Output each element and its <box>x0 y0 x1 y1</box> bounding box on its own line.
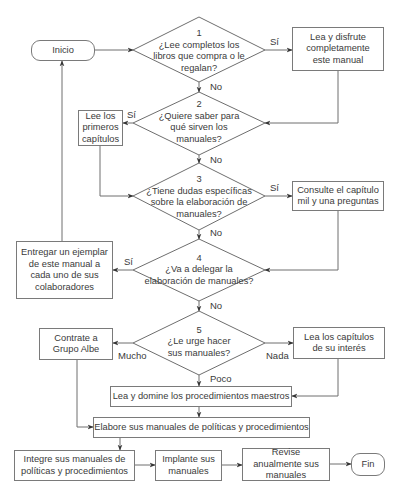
decision-4-number: 4 <box>196 253 201 265</box>
start-label: Inicio <box>52 45 74 57</box>
start-terminal: Inicio <box>31 40 95 61</box>
decision-4-question: ¿Va a delegar la elaboración de manuales… <box>142 264 256 287</box>
edge-label-d5-none: Nada <box>266 350 289 361</box>
decision-3-number: 3 <box>196 174 201 186</box>
decision-2: 2 ¿Quiere saber para qué sirven los manu… <box>140 103 258 141</box>
decision-5-question: ¿Le urge hacer sus manuales? <box>159 336 239 359</box>
decision-1-question: ¿Lee completos los libros que compra o l… <box>149 40 249 75</box>
edge-label-d1-no: No <box>210 81 222 92</box>
decision-5: 5 ¿Le urge hacer sus manuales? <box>140 322 258 362</box>
decision-1-number: 1 <box>196 28 201 40</box>
process-deliver-copy: Entregar un ejemplar de este manual a ca… <box>16 241 113 299</box>
process-integrate-manuals: Integre sus manuales de políticas y proc… <box>14 450 135 481</box>
edge-label-d4-no: No <box>210 300 222 311</box>
process-implement-manuals: Implante sus manuales <box>155 450 222 481</box>
decision-2-number: 2 <box>196 99 201 111</box>
decision-3: 3 ¿Tiene dudas específicas sobre la elab… <box>138 172 260 222</box>
edge-label-d3-no: No <box>210 227 222 238</box>
edge-label-d5-much: Mucho <box>118 350 147 361</box>
decision-2-question: ¿Quiere saber para qué sirven los manual… <box>151 111 247 146</box>
process-read-first-chapters: Lee los primeros capítulos <box>78 110 123 146</box>
process-hire-albe: Contrate a Grupo Albe <box>39 328 113 360</box>
decision-1: 1 ¿Lee completos los libros que compra o… <box>140 28 258 74</box>
decision-3-question: ¿Tiene dudas específicas sobre la elabor… <box>145 186 253 221</box>
process-review-manuals: Revise anualmente sus manuales <box>242 448 330 481</box>
edge-label-d2-no: No <box>210 154 222 165</box>
process-read-interest-chapters: Lea los capítulos de su interés <box>293 327 385 359</box>
flowchart: Inicio Fin 1 ¿Lee completos los libros q… <box>0 0 400 499</box>
edge-label-d3-yes: Sí <box>270 182 279 193</box>
end-terminal: Fin <box>351 453 385 476</box>
process-elaborate-manuals: Elabore sus manuales de políticas y proc… <box>93 417 310 438</box>
decision-4: 4 ¿Va a delegar la elaboración de manual… <box>138 250 260 290</box>
process-consult-chapter: Consulte el capítulo mil y una preguntas <box>292 181 384 211</box>
process-enjoy-manual: Lea y disfrute completamente este manual <box>292 27 384 71</box>
edge-label-d4-yes: Sí <box>124 256 133 267</box>
edge-label-d2-yes: Sí <box>127 109 136 120</box>
decision-5-number: 5 <box>196 325 201 337</box>
process-master-procedures: Lea y domine los procedimientos maestros <box>110 386 292 407</box>
end-label: Fin <box>362 459 375 471</box>
edge-label-d1-yes: Sí <box>270 36 279 47</box>
edge-label-d5-little: Poco <box>210 373 232 384</box>
